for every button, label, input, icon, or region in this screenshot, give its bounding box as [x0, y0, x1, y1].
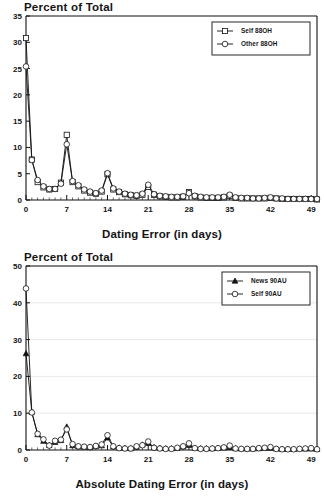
x-axis-label-bottom: Absolute Dating Error (in days) — [0, 478, 324, 490]
data-point-marker — [70, 441, 76, 447]
data-point-marker — [122, 191, 128, 197]
x-axis-label-top: Dating Error (in days) — [0, 228, 324, 240]
data-point-marker — [111, 444, 117, 450]
legend-label: Self 88OH — [241, 27, 272, 34]
data-point-marker — [244, 195, 250, 201]
series-line — [26, 38, 317, 199]
data-point-marker — [268, 444, 274, 450]
legend: Self 88OHOther 88OH — [212, 22, 310, 55]
data-point-marker — [175, 445, 181, 451]
data-point-marker — [23, 35, 28, 40]
x-tick-label: 14 — [103, 205, 112, 214]
data-point-marker — [175, 194, 181, 200]
data-point-marker — [303, 196, 309, 202]
data-point-marker — [99, 442, 105, 448]
data-point-marker — [262, 445, 268, 451]
data-point-marker — [215, 195, 221, 201]
data-point-marker — [111, 186, 117, 192]
data-point-marker — [239, 195, 245, 201]
data-point-marker — [58, 181, 64, 187]
series-1 — [23, 351, 320, 452]
legend-marker — [222, 28, 227, 33]
x-tick-label: 0 — [24, 205, 29, 214]
data-point-marker — [70, 178, 76, 184]
y-tick-label: 30 — [13, 336, 22, 345]
data-point-marker — [76, 444, 82, 450]
data-point-marker — [122, 446, 128, 452]
data-point-marker — [169, 194, 175, 200]
data-point-marker — [192, 445, 198, 451]
data-point-marker — [285, 196, 291, 202]
y-tick-label: 5 — [18, 170, 23, 179]
y-tick-label: 25 — [13, 65, 22, 74]
data-point-marker — [250, 196, 256, 202]
data-point-marker — [204, 446, 210, 452]
data-point-marker — [52, 186, 58, 192]
data-point-marker — [81, 187, 87, 193]
data-point-marker — [308, 445, 314, 451]
data-point-marker — [64, 141, 70, 147]
x-tick-label: 7 — [65, 205, 70, 214]
data-point-marker — [46, 186, 52, 192]
data-point-marker — [308, 196, 314, 202]
data-point-marker — [186, 441, 192, 447]
x-tick-label: 42 — [266, 205, 275, 214]
data-point-marker — [151, 445, 157, 451]
data-point-marker — [41, 437, 47, 443]
data-point-marker — [76, 182, 82, 188]
data-point-marker — [192, 193, 198, 199]
data-point-marker — [314, 196, 320, 202]
data-point-marker — [180, 444, 186, 450]
plot-area-top: 0510152025303507142128354249Self 88OHOth… — [0, 0, 324, 225]
x-tick-label: 42 — [266, 455, 275, 464]
data-point-marker — [204, 195, 210, 201]
data-point-marker — [180, 194, 186, 200]
legend-label: Other 88OH — [241, 40, 278, 47]
x-tick-label: 14 — [103, 455, 112, 464]
data-point-marker — [140, 442, 146, 448]
data-point-marker — [209, 195, 215, 201]
data-point-marker — [81, 444, 87, 450]
data-point-marker — [105, 170, 111, 176]
chart-panel-top: Percent of Total 05101520253035071421283… — [0, 0, 324, 250]
data-point-marker — [145, 182, 151, 188]
data-point-marker — [163, 194, 169, 200]
data-point-marker — [303, 446, 309, 452]
data-point-marker — [29, 410, 35, 416]
legend: News 90AUSelf 90AU — [222, 272, 310, 305]
y-tick-label: 20 — [13, 372, 22, 381]
data-point-marker — [279, 196, 285, 202]
y-tick-label: 40 — [13, 299, 22, 308]
data-point-marker — [134, 444, 140, 450]
y-tick-label: 15 — [13, 117, 22, 126]
data-point-marker — [23, 286, 29, 292]
y-tick-label: 0 — [18, 446, 23, 455]
legend-label: Self 90AU — [251, 290, 282, 297]
data-point-marker — [116, 445, 122, 451]
chart-panel-bottom: Percent of Total 01020304050071421283542… — [0, 250, 324, 500]
y-tick-label: 20 — [13, 91, 22, 100]
x-tick-label: 49 — [307, 205, 316, 214]
y-tick-label: 35 — [13, 12, 22, 21]
data-point-marker — [64, 132, 69, 137]
data-point-marker — [93, 190, 99, 196]
y-tick-label: 50 — [13, 262, 22, 271]
x-tick-label: 28 — [185, 455, 194, 464]
data-point-marker — [250, 446, 256, 452]
y-tick-label: 10 — [13, 143, 22, 152]
data-point-marker — [128, 192, 134, 198]
series-line — [26, 288, 317, 449]
data-point-marker — [209, 446, 215, 452]
plot-area-bottom: 0102030405007142128354249News 90AUSelf 9… — [0, 250, 324, 475]
data-point-marker — [268, 195, 274, 201]
data-point-marker — [87, 444, 93, 450]
data-point-marker — [233, 446, 239, 452]
data-point-marker — [279, 446, 285, 452]
data-point-marker — [256, 196, 262, 202]
y-tick-label: 10 — [13, 409, 22, 418]
data-point-marker — [221, 445, 227, 451]
data-point-marker — [35, 177, 41, 183]
series-line — [26, 354, 317, 450]
data-point-marker — [23, 351, 29, 356]
data-point-marker — [29, 157, 35, 163]
